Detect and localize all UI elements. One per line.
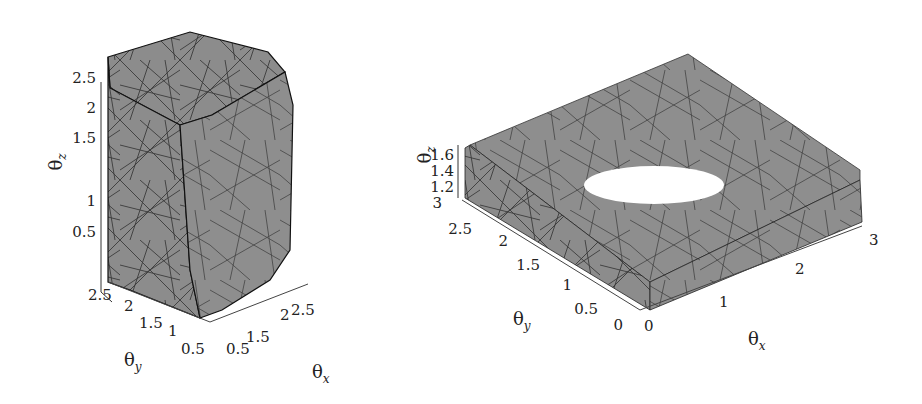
svg-text:2: 2 (124, 297, 134, 315)
svg-text:1.5: 1.5 (516, 256, 540, 274)
svg-text:1.5: 1.5 (139, 314, 163, 332)
svg-text:1.5: 1.5 (72, 129, 96, 147)
svg-text:0.5: 0.5 (181, 340, 205, 358)
svg-text:2: 2 (795, 260, 805, 278)
left-cube-plot: 2.5 2 1.5 1 0.5 θz 2.5 2 1.5 1 0.5 θy 0.… (45, 32, 330, 386)
svg-text:θz: θz (414, 146, 438, 164)
y-axis-label: θy (124, 349, 142, 374)
svg-text:2.5: 2.5 (291, 301, 315, 319)
svg-text:0: 0 (613, 316, 623, 334)
svg-text:1.5: 1.5 (246, 328, 270, 346)
svg-text:θz: θz (45, 153, 69, 171)
svg-text:2.5: 2.5 (88, 286, 112, 304)
svg-text:0.5: 0.5 (72, 223, 96, 241)
svg-text:2: 2 (280, 306, 290, 324)
svg-text:1: 1 (562, 276, 572, 294)
svg-text:1: 1 (168, 322, 178, 340)
x-axis-label: θx (748, 328, 766, 353)
svg-text:0: 0 (644, 317, 654, 335)
svg-text:2.5: 2.5 (448, 220, 472, 238)
figure: 2.5 2 1.5 1 0.5 θz 2.5 2 1.5 1 0.5 θy 0.… (0, 0, 922, 404)
svg-text:1: 1 (86, 192, 96, 210)
x-axis-label: θx (312, 361, 330, 386)
svg-text:1: 1 (719, 293, 729, 311)
right-slab-plot: 1.6 1.4 1.2 θz 3 2.5 2 1.5 1 0.5 0 θy 0 … (414, 54, 879, 353)
svg-text:3: 3 (869, 231, 879, 249)
y-axis-label: θy (513, 308, 531, 333)
z-tick-labels: 2.5 2 1.5 1 0.5 (72, 69, 96, 241)
elliptical-hole (584, 166, 724, 204)
svg-text:2: 2 (498, 232, 508, 250)
x-tick-labels: 0.5 1 1.5 2 2.5 (226, 301, 315, 358)
svg-text:3: 3 (432, 194, 442, 212)
svg-text:0.5: 0.5 (574, 300, 598, 318)
z-axis-label: θz (414, 146, 438, 164)
svg-text:2: 2 (86, 99, 96, 117)
z-axis-label: θz (45, 153, 69, 171)
svg-text:2.5: 2.5 (72, 69, 96, 87)
